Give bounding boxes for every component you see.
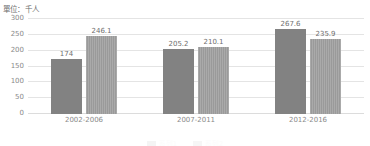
y-axis-tick-label: 250 [11,30,24,38]
legend-swatch [193,141,202,146]
bar-value-label: 246.1 [91,27,111,35]
bar[interactable] [86,36,117,114]
category-label: 2002-2006 [28,116,140,124]
legend-item[interactable]: 系列2 [193,140,223,146]
legend-item[interactable]: 系列1 [147,140,177,146]
y-axis-tick-label: 300 [11,14,24,22]
bar-slot: 267.6 [275,19,306,114]
bar-value-label: 235.9 [315,30,335,38]
chart-legend: 系列1系列2 [0,140,370,146]
bar-slot: 246.1 [86,19,117,114]
legend-swatch [147,141,156,146]
category-label: 2007-2011 [140,116,252,124]
legend-label: 系列1 [159,140,177,146]
bar-chart: 單位：千人 300250200150100500 174246.1205.221… [0,0,370,146]
bar[interactable] [275,29,306,114]
bar[interactable] [198,47,229,114]
bar[interactable] [51,59,82,114]
plot-area: 300250200150100500 174246.1205.2210.1267… [28,19,364,114]
bar-value-label: 174 [60,50,73,58]
category-axis: 2002-20062007-20112012-2016 [28,116,364,124]
bar[interactable] [310,39,341,114]
y-axis-tick-label: 0 [20,109,24,117]
y-axis-tick-label: 150 [11,62,24,70]
y-axis-tick-label: 50 [15,93,24,101]
bar-group: 205.2210.1 [140,19,252,114]
bar-value-label: 205.2 [168,40,188,48]
y-axis-tick-label: 100 [11,77,24,85]
bar-slot: 235.9 [310,19,341,114]
bars-layer: 174246.1205.2210.1267.6235.9 [28,19,364,114]
legend-label: 系列2 [205,140,223,146]
bar-slot: 174 [51,19,82,114]
bar-slot: 205.2 [163,19,194,114]
bar-group: 267.6235.9 [252,19,364,114]
y-axis-tick-label: 200 [11,46,24,54]
bar-value-label: 210.1 [203,38,223,46]
bar-group: 174246.1 [28,19,140,114]
unit-label: 單位：千人 [3,3,39,14]
bar[interactable] [163,49,194,114]
bar-value-label: 267.6 [280,20,300,28]
category-label: 2012-2016 [252,116,364,124]
bar-slot: 210.1 [198,19,229,114]
